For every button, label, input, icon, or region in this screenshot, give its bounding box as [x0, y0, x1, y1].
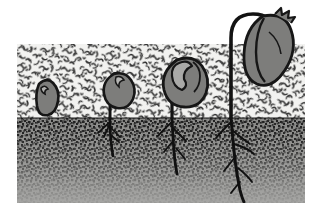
soil-region	[17, 118, 305, 203]
bottom-mask	[17, 203, 305, 210]
seed-coat	[36, 80, 58, 115]
germination-figure: Seed germination sequence Soil surface A…	[0, 0, 318, 210]
stage-1-dormant-seed	[36, 80, 58, 115]
soil-texture	[17, 118, 305, 203]
illustration-canvas	[17, 44, 305, 203]
germination-svg	[17, 44, 305, 203]
